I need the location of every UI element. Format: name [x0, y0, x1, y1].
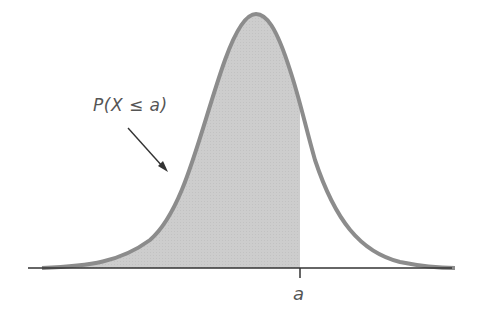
- normal-curve-figure: P(X ≤ a) a: [0, 0, 478, 318]
- shaded-area: [42, 14, 455, 268]
- normal-curve-svg: [0, 0, 478, 318]
- probability-label: P(X ≤ a): [93, 95, 168, 115]
- a-tick-label: a: [293, 283, 304, 304]
- arrow-line: [128, 128, 163, 167]
